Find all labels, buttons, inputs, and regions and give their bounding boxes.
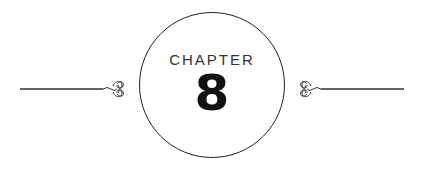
right-flourish-icon	[301, 81, 404, 96]
divider-ornaments	[0, 0, 424, 172]
left-flourish-icon	[20, 81, 123, 96]
